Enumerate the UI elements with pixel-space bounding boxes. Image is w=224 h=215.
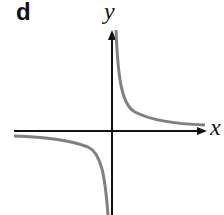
figure-panel-d: d y x	[0, 0, 224, 215]
curve-branch-quadrant-3	[14, 136, 108, 215]
y-axis	[108, 30, 116, 215]
x-axis	[14, 127, 207, 135]
curve-branch-quadrant-1	[116, 30, 205, 125]
plot-area	[0, 0, 224, 215]
